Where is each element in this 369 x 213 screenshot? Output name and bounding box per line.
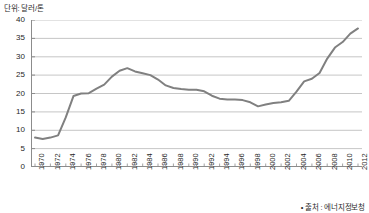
- x-axis-tick-label: 1982: [131, 153, 139, 170]
- x-axis-tick-label: 2000: [269, 153, 277, 170]
- x-axis-tick-label: 2002: [284, 153, 292, 170]
- x-axis-tick-label: 1976: [85, 153, 93, 170]
- y-axis-tick-label: 40: [1, 16, 25, 24]
- data-series-line: [35, 28, 358, 139]
- y-axis-tick-label: 30: [1, 53, 25, 61]
- x-axis-tick-label: 1974: [69, 153, 77, 170]
- y-axis-tick-label: 15: [1, 108, 25, 116]
- chart-screenshot: 단위: 달러/톤 0510152025303540 19701972197419…: [0, 0, 369, 213]
- x-axis-tick-label: 1996: [238, 153, 246, 170]
- y-axis-tick-label: 10: [1, 126, 25, 134]
- x-axis-tick-label: 2006: [315, 153, 323, 170]
- x-axis-tick-label: 1988: [177, 153, 185, 170]
- y-axis-tick-label: 25: [1, 71, 25, 79]
- x-axis-tick-label: 1984: [146, 153, 154, 170]
- y-axis-tick-label: 35: [1, 34, 25, 42]
- x-axis-tick-label: 2008: [331, 153, 339, 170]
- x-axis-tick-label: 1972: [54, 153, 62, 170]
- y-axis-tick-label: 5: [1, 145, 25, 153]
- x-axis-tick-label: 2004: [300, 153, 308, 170]
- x-axis-tick-label: 2012: [361, 153, 369, 170]
- source-note: • 출처 : 에너지정보청: [301, 201, 365, 212]
- plot-area: [31, 20, 362, 167]
- x-axis-tick-label: 1994: [223, 153, 231, 170]
- unit-caption: 단위: 달러/톤: [4, 2, 44, 13]
- y-axis-tick-label: 20: [1, 90, 25, 98]
- x-axis-tick-label: 1970: [38, 153, 46, 170]
- x-axis-tick-label: 1986: [161, 153, 169, 170]
- line-chart-svg: [31, 20, 362, 167]
- x-axis-tick-label: 1990: [192, 153, 200, 170]
- y-axis-tick-label: 0: [1, 163, 25, 171]
- x-axis-tick-label: 1978: [100, 153, 108, 170]
- x-axis-tick-label: 1992: [208, 153, 216, 170]
- x-axis-tick-label: 1998: [254, 153, 262, 170]
- x-axis-tick-label: 2010: [346, 153, 354, 170]
- x-axis-tick-label: 1980: [115, 153, 123, 170]
